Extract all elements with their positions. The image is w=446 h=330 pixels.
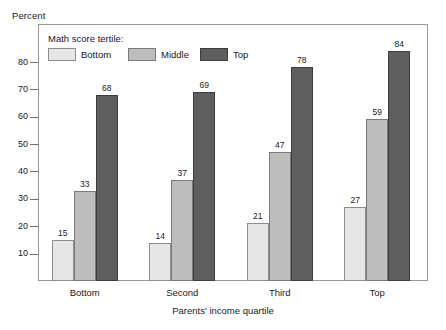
- bar: [269, 152, 291, 281]
- legend-label-top: Top: [233, 50, 248, 60]
- legend-title: Math score tertile:: [48, 33, 298, 44]
- bar-chart: Percent 1020304050607080 153368143769214…: [0, 0, 446, 330]
- bar: [171, 180, 193, 281]
- bar: [96, 95, 118, 281]
- bar: [291, 67, 313, 281]
- bar: [366, 119, 388, 281]
- legend-label-middle: Middle: [161, 50, 189, 60]
- legend-swatch-middle: [128, 48, 156, 61]
- x-axis-group-label: Top: [324, 288, 430, 298]
- legend-item-top: Top: [200, 48, 248, 61]
- legend-items: BottomMiddleTop: [48, 48, 298, 64]
- x-axis-title: Parents' income quartile: [0, 306, 446, 316]
- bar: [74, 191, 96, 281]
- x-axis-group-label: Bottom: [32, 288, 138, 298]
- bar: [388, 51, 410, 281]
- bar-value-label: 84: [382, 40, 416, 49]
- legend-item-bottom: Bottom: [48, 48, 111, 61]
- legend-label-bottom: Bottom: [81, 50, 111, 60]
- bar: [52, 240, 74, 281]
- legend: Math score tertile: BottomMiddleTop: [48, 33, 298, 64]
- legend-swatch-top: [200, 48, 228, 61]
- legend-item-middle: Middle: [128, 48, 189, 61]
- bar: [193, 92, 215, 281]
- x-axis-group-label: Third: [227, 288, 333, 298]
- bar: [149, 243, 171, 281]
- legend-swatch-bottom: [48, 48, 76, 61]
- bar-value-label: 68: [90, 84, 124, 93]
- x-axis-group-label: Second: [129, 288, 235, 298]
- bar: [247, 223, 269, 281]
- bar: [344, 207, 366, 281]
- bar-value-label: 69: [187, 81, 221, 90]
